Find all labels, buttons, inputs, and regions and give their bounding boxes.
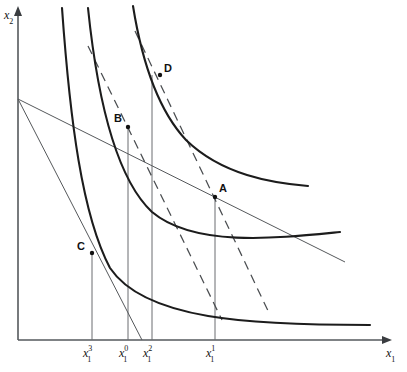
x-tick-label-x1-0: x01 <box>119 345 132 362</box>
point-marker-B <box>126 125 130 129</box>
point-marker-C <box>90 251 94 255</box>
x-axis-label-sub: 1 <box>391 355 395 364</box>
point-label-A: A <box>219 182 227 194</box>
diagram-canvas <box>0 0 407 372</box>
tick-sub: 1 <box>147 355 151 364</box>
tick-sup: 3 <box>88 344 92 353</box>
tick-sub: 1 <box>123 355 127 364</box>
economics-diagram: A B C D x31 x01 x21 x11 x2 x1 <box>0 0 407 372</box>
dashed-budget-line-through-D <box>135 31 270 315</box>
tick-sup: 0 <box>124 344 128 353</box>
compensated-budget-line-steep <box>18 99 142 340</box>
tick-sup: 2 <box>148 344 152 353</box>
x-tick-label-x1-3: x31 <box>83 345 96 362</box>
lowest-indifference-curve <box>62 8 370 325</box>
tick-sub: 1 <box>87 355 91 364</box>
point-label-B: B <box>114 112 122 124</box>
y-axis-arrow <box>14 6 22 16</box>
tick-sub: 1 <box>210 355 214 364</box>
point-marker-A <box>213 195 217 199</box>
y-axis-label-sub: 2 <box>9 17 13 26</box>
upper-indifference-curve <box>133 6 308 186</box>
x-tick-label-x1-2: x21 <box>143 345 156 362</box>
x-tick-label-x1-1: x11 <box>206 345 219 362</box>
point-label-C: C <box>77 240 85 252</box>
x-axis-arrow <box>382 336 392 344</box>
tick-sup: 1 <box>211 344 215 353</box>
point-label-D: D <box>164 62 172 74</box>
y-axis-label: x2 <box>4 8 13 24</box>
point-marker-D <box>158 73 162 77</box>
middle-indifference-curve <box>88 8 340 238</box>
x-axis-label: x1 <box>386 346 395 362</box>
